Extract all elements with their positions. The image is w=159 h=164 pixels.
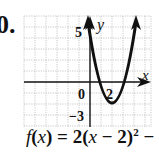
x-axis-label: x (141, 67, 149, 83)
grid (24, 16, 151, 127)
y-axis-label: y (95, 16, 105, 34)
tick-label-neg3: −3 (69, 109, 84, 124)
tick-label-2: 2 (106, 87, 113, 102)
tick-label-5: 5 (75, 25, 82, 40)
tick-label-0: 0 (78, 87, 85, 102)
function-caption: f(x) = 2(x − 2)2 − 3 (26, 126, 159, 148)
function-name: f (26, 126, 31, 147)
